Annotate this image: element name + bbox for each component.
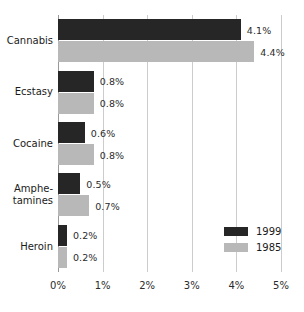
category-label-ecstasy: Ecstasy bbox=[0, 86, 53, 98]
bar-1999-cocaine bbox=[58, 122, 85, 143]
x-tick-label: 4% bbox=[228, 280, 244, 291]
bar-1985-cocaine bbox=[58, 144, 94, 165]
legend-label: 1985 bbox=[256, 242, 281, 253]
x-tick-label: 3% bbox=[184, 280, 200, 291]
bar-value-label: 0.8% bbox=[100, 76, 125, 87]
bar-value-label: 0.8% bbox=[100, 98, 125, 109]
bar-value-label: 4.4% bbox=[260, 46, 285, 57]
legend-label: 1999 bbox=[256, 226, 281, 237]
bar-value-label: 0.6% bbox=[91, 127, 116, 138]
bar-value-label: 4.1% bbox=[247, 24, 272, 35]
bar-1999-amphetamines bbox=[58, 173, 80, 194]
legend-swatch-1985 bbox=[224, 243, 248, 252]
category-label-cocaine: Cocaine bbox=[0, 138, 53, 150]
x-tick-label: 0% bbox=[50, 280, 66, 291]
legend-item-1999[interactable]: 1999 bbox=[224, 225, 281, 238]
bar-1985-ecstasy bbox=[58, 93, 94, 114]
bar-1999-ecstasy bbox=[58, 71, 94, 92]
bar-value-label: 0.2% bbox=[73, 252, 98, 263]
bar-1985-heroin bbox=[58, 247, 67, 268]
x-tick-label: 5% bbox=[273, 280, 289, 291]
bar-value-label: 0.5% bbox=[86, 178, 111, 189]
bar-1999-cannabis bbox=[58, 19, 241, 40]
bar-1985-cannabis bbox=[58, 41, 254, 62]
bar-1999-heroin bbox=[58, 225, 67, 246]
x-axis-tick-labels: 0%1%2%3%4%5% bbox=[0, 280, 304, 300]
bar-1985-amphetamines bbox=[58, 195, 89, 216]
legend-swatch-1999 bbox=[224, 227, 248, 236]
bar-value-label: 0.2% bbox=[73, 230, 98, 241]
bar-chart: CannabisEcstasyCocaineAmphe- taminesHero… bbox=[0, 0, 304, 312]
chart-legend: 19991985 bbox=[224, 225, 281, 257]
category-label-heroin: Heroin bbox=[0, 241, 53, 253]
bar-value-label: 0.7% bbox=[95, 200, 120, 211]
legend-item-1985[interactable]: 1985 bbox=[224, 241, 281, 254]
bar-value-label: 0.8% bbox=[100, 149, 125, 160]
x-tick-label: 1% bbox=[95, 280, 111, 291]
category-label-amphetamines: Amphe- tamines bbox=[0, 183, 53, 206]
x-tick-label: 2% bbox=[139, 280, 155, 291]
category-label-cannabis: Cannabis bbox=[0, 35, 53, 47]
